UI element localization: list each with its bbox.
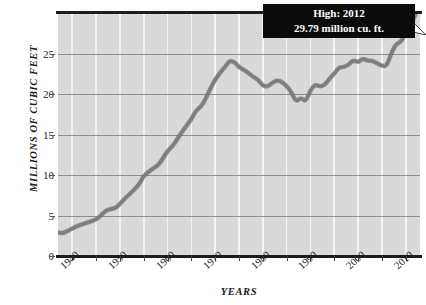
y-tick-mark xyxy=(50,54,55,55)
y-tick-label: 15 xyxy=(8,129,54,141)
data-series-line xyxy=(58,13,420,256)
callout-line-2: 29.79 million cu. ft. xyxy=(263,21,415,36)
x-tick-mark xyxy=(334,256,335,261)
y-tick-label: 5 xyxy=(8,210,54,222)
y-tick-label: 10 xyxy=(8,169,54,181)
x-tick-mark xyxy=(191,256,192,261)
x-axis-title: YEARS xyxy=(58,286,420,297)
x-tick-mark xyxy=(96,256,97,261)
data-line-outline xyxy=(58,15,415,233)
y-tick-mark xyxy=(50,135,55,136)
callout-line-1: High: 2012 xyxy=(263,4,415,21)
y-tick-label: 25 xyxy=(8,48,54,60)
x-tick-mark xyxy=(382,256,383,261)
x-tick-mark xyxy=(239,256,240,261)
high-value-callout: High: 2012 29.79 million cu. ft. xyxy=(263,4,415,38)
y-tick-mark xyxy=(50,94,55,95)
plot-area xyxy=(58,13,420,256)
y-tick-label: 0 xyxy=(8,250,54,262)
y-tick-mark xyxy=(50,175,55,176)
x-tick-mark xyxy=(287,256,288,261)
x-tick-mark xyxy=(144,256,145,261)
data-line xyxy=(58,15,415,233)
y-tick-mark xyxy=(50,256,55,257)
y-tick-mark xyxy=(50,216,55,217)
y-tick-label: 20 xyxy=(8,88,54,100)
y-axis-ticks: 0510152025 xyxy=(0,0,54,305)
chart-figure: MILLIONS OF CUBIC FEET 0510152025 194019… xyxy=(0,0,426,305)
